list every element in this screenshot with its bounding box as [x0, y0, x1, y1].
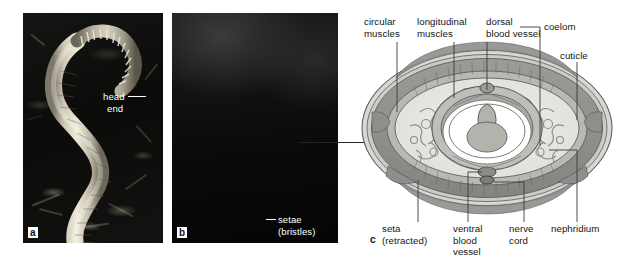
label-setae-line2: (bristles) [278, 226, 315, 237]
panel-c-cross-section: circular muscles longitudinal muscles do… [344, 0, 627, 262]
label-nerve-cord-line1: nerve [509, 223, 533, 234]
label-head-end-line2: end [107, 103, 123, 115]
panel-c-letter: c [368, 234, 378, 245]
earthworm-body [23, 19, 163, 243]
label-ventral-blood-vessel-line1: ventral [453, 223, 482, 234]
label-longitudinal-muscles-line2: muscles [417, 28, 453, 39]
label-circular-muscles: circular muscles [364, 16, 400, 39]
label-nerve-cord: nerve cord [509, 223, 533, 246]
label-cuticle: cuticle [560, 50, 588, 62]
label-setae-line1: setae [278, 214, 302, 225]
panel-a-photograph: head end a [23, 13, 163, 243]
label-dorsal-blood-vessel: dorsal blood vessel [486, 16, 540, 39]
label-dorsal-blood-vessel-line2: blood vessel [486, 28, 540, 39]
panel-b-letter: b [177, 227, 187, 238]
label-circular-muscles-line1: circular [364, 16, 396, 27]
sem-background [172, 13, 338, 243]
label-nerve-cord-line2: cord [509, 235, 528, 246]
panel-b-micrograph: setae (bristles) b [172, 13, 338, 243]
label-seta-line1: seta [382, 223, 401, 234]
label-circular-muscles-line2: muscles [364, 28, 400, 39]
label-head-end: head end [103, 91, 125, 114]
label-longitudinal-muscles: longitudinal muscles [417, 16, 467, 39]
panel-b-image: setae (bristles) b [172, 13, 338, 243]
panel-a-image: head end a [23, 13, 163, 243]
label-longitudinal-muscles-line1: longitudinal [417, 16, 467, 27]
label-nephridium: nephridium [551, 223, 599, 235]
label-seta-line2: (retracted) [382, 235, 427, 246]
label-coelom: coelom [544, 21, 576, 33]
leader-head-end [128, 96, 146, 97]
label-ventral-blood-vessel: ventral blood vessel [453, 223, 482, 258]
panel-a-letter: a [28, 227, 38, 238]
label-ventral-blood-vessel-line3: vessel [453, 246, 481, 257]
figure-earthworm-anatomy: head end a [0, 0, 627, 262]
leader-setae [266, 219, 276, 220]
label-setae: setae (bristles) [278, 214, 315, 237]
label-seta: seta (retracted) [382, 223, 427, 246]
label-head-end-line1: head [103, 91, 125, 102]
label-dorsal-blood-vessel-line1: dorsal [486, 16, 513, 27]
label-ventral-blood-vessel-line2: blood [453, 235, 477, 246]
